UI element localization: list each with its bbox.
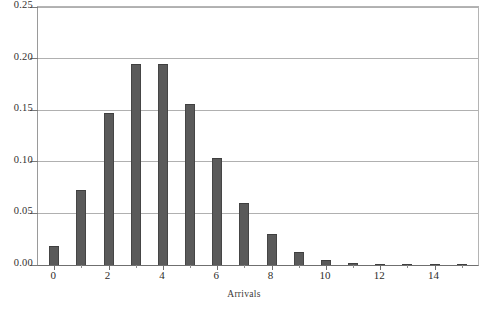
x-axis-label-0: 0 — [40, 269, 66, 281]
bar-0 — [49, 246, 59, 265]
bar-2 — [104, 113, 114, 265]
gridline-y-0.15 — [38, 110, 478, 111]
gridline-y-0.20 — [38, 58, 478, 59]
bar-8 — [267, 234, 277, 265]
x-tick-minor-1 — [81, 265, 82, 268]
bar-3 — [131, 64, 141, 265]
poisson-bar-chart: Arrivals 0.000.050.100.150.200.250246810… — [0, 0, 488, 313]
y-axis-label-0.25: 0.25 — [0, 0, 33, 10]
bar-15 — [457, 264, 467, 265]
x-axis-label-12: 12 — [366, 269, 392, 281]
bar-5 — [185, 104, 195, 265]
x-axis-label-10: 10 — [312, 269, 338, 281]
bar-10 — [321, 260, 331, 265]
gridline-y-0.25 — [38, 7, 478, 8]
x-axis-label-6: 6 — [203, 269, 229, 281]
plot-area — [37, 6, 479, 266]
x-tick-minor-7 — [244, 265, 245, 268]
x-tick-minor-9 — [299, 265, 300, 268]
y-axis-label-0.05: 0.05 — [0, 205, 33, 216]
x-tick-minor-3 — [136, 265, 137, 268]
x-tick-minor-15 — [462, 265, 463, 268]
y-axis-label-0.15: 0.15 — [0, 102, 33, 113]
x-tick-minor-5 — [190, 265, 191, 268]
bar-14 — [430, 264, 440, 265]
bar-12 — [375, 264, 385, 265]
x-tick-minor-13 — [407, 265, 408, 268]
bar-1 — [76, 190, 86, 265]
y-axis-label-0.00: 0.00 — [0, 257, 33, 268]
x-axis-label-14: 14 — [421, 269, 447, 281]
x-axis-label-8: 8 — [258, 269, 284, 281]
bar-9 — [294, 252, 304, 265]
y-axis-label-0.20: 0.20 — [0, 51, 33, 62]
bar-7 — [239, 203, 249, 265]
bar-11 — [348, 263, 358, 265]
x-axis-title: Arrivals — [0, 289, 488, 299]
x-tick-minor-11 — [353, 265, 354, 268]
bar-13 — [402, 264, 412, 265]
x-axis-label-4: 4 — [149, 269, 175, 281]
bar-4 — [158, 64, 168, 265]
y-axis-label-0.10: 0.10 — [0, 154, 33, 165]
x-axis-label-2: 2 — [95, 269, 121, 281]
bar-6 — [212, 158, 222, 265]
